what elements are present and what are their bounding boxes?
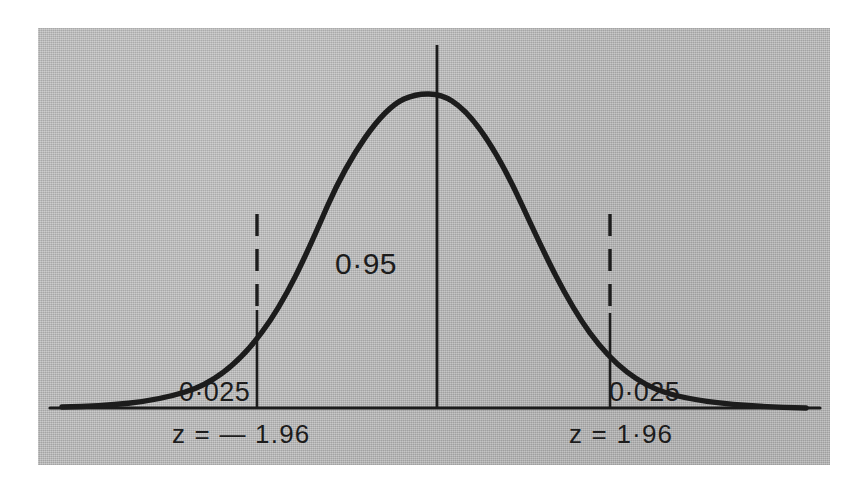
right-critical-value-label: z = 1·96	[569, 421, 673, 447]
center-area-label: 0·95	[335, 249, 397, 279]
figure-root: 0·95 0·025 0·025 z = — 1.96 z = 1·96	[0, 0, 854, 481]
normal-curve	[62, 94, 806, 408]
left-critical-value-label: z = — 1.96	[172, 421, 310, 447]
right-tail-area-label: 0·025	[609, 379, 680, 406]
left-tail-area-label: 0·025	[179, 379, 250, 406]
normal-distribution-plot	[0, 0, 854, 481]
